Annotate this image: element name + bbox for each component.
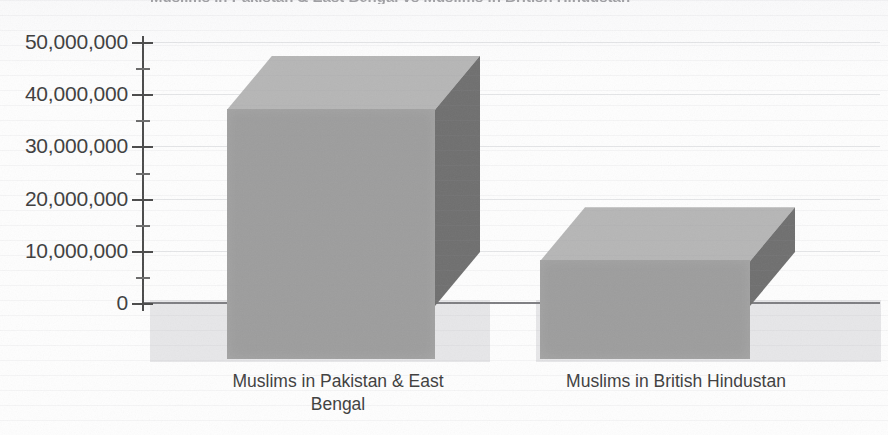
y-tick-major-50m [132, 42, 153, 44]
x-axis-label-pakistan-east-bengal-line2: Bengal [173, 393, 503, 416]
bar-front-face-2 [540, 260, 750, 359]
chart-title-text: Muslims in Pakistan & East Bengal vs Mus… [150, 0, 710, 4]
y-tick-major-10m [132, 251, 153, 253]
y-tick-major-0 [132, 303, 153, 305]
y-axis-label-50m: 50,000,000 [0, 31, 128, 52]
y-tick-minor-25m [136, 173, 150, 175]
x-axis-label-pakistan-east-bengal-line1: Muslims in Pakistan & East [173, 370, 503, 393]
x-axis-category-labels: Muslims in Pakistan & East Bengal Muslim… [143, 370, 880, 432]
y-axis-label-40m: 40,000,000 [0, 83, 128, 104]
y-axis-label-10m: 10,000,000 [0, 240, 128, 261]
y-tick-major-40m [132, 94, 153, 96]
chart-canvas: Muslims in Pakistan & East Bengal vs Mus… [0, 0, 888, 435]
y-tick-minor-45m [136, 68, 150, 70]
bar-muslims-in-british-hindustan[interactable] [540, 207, 796, 360]
y-tick-major-30m [132, 146, 153, 148]
y-tick-minor-15m [136, 225, 150, 227]
bar-muslims-in-pakistan-east-bengal[interactable] [227, 56, 481, 360]
x-axis-label-pakistan-east-bengal: Muslims in Pakistan & East Bengal [173, 370, 503, 416]
chart-title-cropped: Muslims in Pakistan & East Bengal vs Mus… [150, 0, 710, 4]
y-tick-minor-35m [136, 120, 150, 122]
bar-front-face-1 [227, 109, 435, 359]
x-axis-label-british-hindustan-line1: Muslims in British Hindustan [511, 370, 841, 393]
y-tick-minor-5m [136, 277, 150, 279]
y-axis-label-0: 0 [0, 292, 128, 313]
y-tick-major-20m [132, 199, 153, 201]
y-axis-label-30m: 30,000,000 [0, 135, 128, 156]
x-axis-label-british-hindustan: Muslims in British Hindustan [511, 370, 841, 393]
gridline-50m [143, 42, 880, 43]
y-axis-label-20m: 20,000,000 [0, 188, 128, 209]
